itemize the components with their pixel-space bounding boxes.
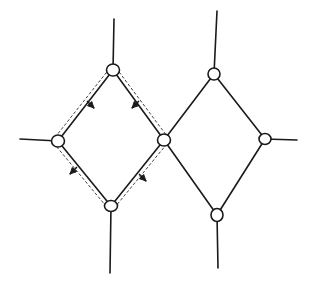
graph-edge	[58, 141, 111, 206]
graph-node-r-top	[208, 68, 220, 80]
graph-node-r-right	[259, 134, 271, 145]
edge-stub	[113, 19, 114, 70]
edge-stub	[214, 11, 217, 74]
graph-node-l-top	[107, 64, 120, 76]
diamond-graph-diagram	[0, 0, 309, 286]
graph-node-l-bottom	[105, 201, 118, 212]
graph-edge	[58, 70, 113, 141]
edge-stub	[110, 206, 111, 273]
graph-node-center	[158, 134, 171, 146]
graph-node-l-left	[52, 135, 65, 147]
graph-edge	[111, 140, 164, 206]
graph-edge	[164, 74, 214, 140]
graph-nodes	[52, 64, 272, 222]
graph-edge	[164, 140, 217, 215]
dashed-loop-path	[52, 64, 170, 212]
graph-edge	[214, 74, 265, 139]
graph-node-r-bottom	[211, 209, 223, 222]
dashed-loop	[52, 64, 170, 212]
edge-stub	[217, 215, 218, 268]
graph-edge	[217, 139, 265, 215]
